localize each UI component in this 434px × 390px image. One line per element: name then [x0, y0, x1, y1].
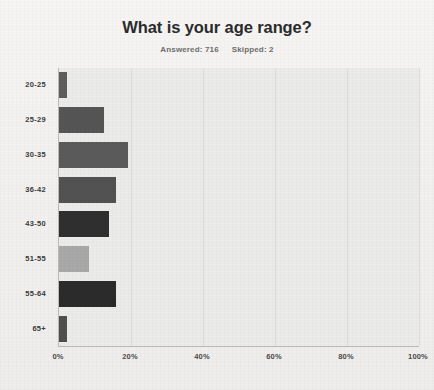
bar-row: [59, 316, 419, 342]
chart-response-stats: Answered: 716Skipped: 2: [0, 45, 434, 54]
bar-20-25[interactable]: [59, 72, 67, 98]
bar-row: [59, 177, 419, 203]
bar-65+[interactable]: [59, 316, 67, 342]
chart-title: What is your age range?: [0, 18, 434, 37]
bar-row: [59, 107, 419, 133]
bar-51-55[interactable]: [59, 246, 89, 272]
y-axis-label-55-64: 55-64: [25, 289, 46, 298]
y-axis-label-36-42: 36-42: [25, 185, 46, 194]
y-axis-label-20-25: 20-25: [25, 80, 46, 89]
x-axis-label-60%: 60%: [266, 352, 282, 361]
y-axis-label-65+: 65+: [32, 324, 46, 333]
bar-30-35[interactable]: [59, 142, 128, 168]
bar-row: [59, 72, 419, 98]
x-axis-label-0%: 0%: [52, 352, 63, 361]
bar-row: [59, 142, 419, 168]
bar-row: [59, 211, 419, 237]
x-axis-label-40%: 40%: [194, 352, 210, 361]
bar-43-50[interactable]: [59, 211, 109, 237]
y-axis-label-30-35: 30-35: [25, 150, 46, 159]
y-axis-label-25-29: 25-29: [25, 115, 46, 124]
bar-36-42[interactable]: [59, 177, 116, 203]
x-axis-label-20%: 20%: [122, 352, 138, 361]
x-axis-labels: 0%20%40%60%80%100%: [0, 352, 434, 368]
skipped-count-label: Skipped: 2: [232, 45, 274, 54]
answered-count-label: Answered: 716: [160, 45, 218, 54]
y-axis-label-43-50: 43-50: [25, 219, 46, 228]
y-axis-label-51-55: 51-55: [25, 254, 46, 263]
plot-area: [58, 68, 419, 346]
bar-rows: [59, 68, 419, 346]
y-axis-labels: 20-2525-2930-3536-4243-5051-5555-6465+: [0, 68, 52, 346]
chart-card: What is your age range? Answered: 716Ski…: [0, 0, 434, 390]
bar-55-64[interactable]: [59, 281, 116, 307]
bar-row: [59, 246, 419, 272]
bar-row: [59, 281, 419, 307]
x-axis-label-100%: 100%: [408, 352, 428, 361]
x-axis-label-80%: 80%: [338, 352, 354, 361]
bar-25-29[interactable]: [59, 107, 104, 133]
gridline: [419, 68, 420, 346]
x-axis-line: [58, 346, 419, 347]
